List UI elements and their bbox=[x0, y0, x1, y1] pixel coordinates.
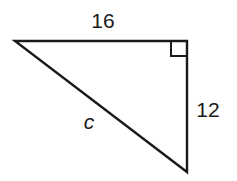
right-side-label: 12 bbox=[196, 98, 219, 121]
right-triangle-diagram: 16 12 c bbox=[0, 0, 237, 181]
right-angle-marker bbox=[171, 41, 187, 56]
hypotenuse-label: c bbox=[84, 110, 95, 133]
top-side-label: 16 bbox=[91, 9, 114, 32]
triangle bbox=[15, 41, 187, 172]
